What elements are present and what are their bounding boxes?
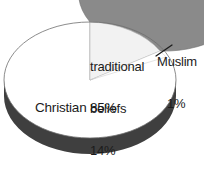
slice-label-muslim-line2: 1% — [167, 97, 197, 111]
slice-label-traditional-line2: beliefs — [90, 102, 144, 116]
slice-label-muslim-line1: Muslim — [157, 55, 197, 69]
slice-label-traditional-line3: 14% — [90, 144, 144, 158]
slice-label-muslim: Muslim 1% — [157, 27, 197, 139]
pie-chart: Christian 85% traditional beliefs 14% Mu… — [0, 0, 204, 181]
slice-label-traditional-beliefs: traditional beliefs 14% — [90, 32, 144, 181]
slice-label-traditional-line1: traditional — [90, 60, 144, 74]
